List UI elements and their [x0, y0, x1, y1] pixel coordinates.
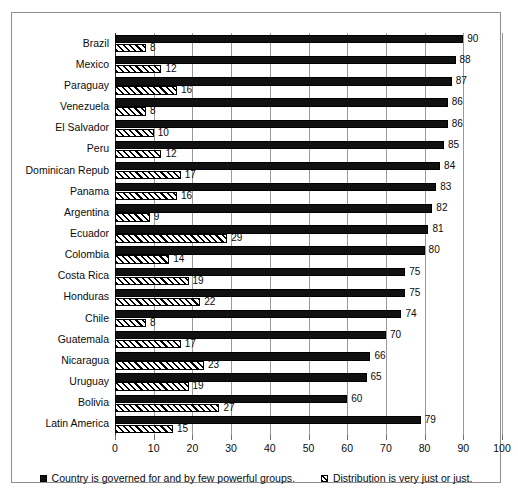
bar-governed-by-few — [115, 373, 367, 381]
axis-tick — [270, 435, 271, 440]
axis-tick — [463, 435, 464, 440]
bar-distribution-just — [115, 382, 189, 390]
category-label: Paraguay — [64, 80, 109, 91]
axis-tick — [386, 435, 387, 440]
bar-value-label: 12 — [165, 64, 176, 74]
bar-value-label: 23 — [208, 360, 219, 370]
axis-tick-label: 70 — [380, 442, 392, 454]
bar-value-label: 84 — [444, 161, 455, 171]
bar-distribution-just — [115, 298, 200, 306]
axis-tick-label: 10 — [148, 442, 160, 454]
legend-item: Country is governed for and by few power… — [40, 472, 295, 484]
axis-tick — [502, 435, 503, 440]
bar-row: 748 — [115, 308, 502, 329]
bar-row: 6623 — [115, 350, 502, 371]
bar-governed-by-few — [115, 225, 428, 233]
bar-row: 7519 — [115, 266, 502, 287]
bar-value-label: 29 — [231, 233, 242, 243]
bar-distribution-just — [115, 44, 146, 52]
bar-value-label: 8 — [150, 318, 156, 328]
bar-governed-by-few — [115, 98, 448, 106]
bar-governed-by-few — [115, 268, 405, 276]
bar-value-label: 14 — [173, 254, 184, 264]
bar-distribution-just — [115, 255, 169, 263]
bar-value-label: 15 — [177, 424, 188, 434]
bar-value-label: 60 — [351, 394, 362, 404]
bar-row: 8512 — [115, 139, 502, 160]
bar-value-label: 75 — [409, 267, 420, 277]
bar-value-label: 88 — [460, 55, 471, 65]
axis-tick-label: 90 — [457, 442, 469, 454]
axis-tick-label: 0 — [112, 442, 118, 454]
bar-row: 7522 — [115, 287, 502, 308]
axis-tick — [154, 435, 155, 440]
bar-row: 7915 — [115, 414, 502, 435]
bar-value-label: 82 — [436, 203, 447, 213]
category-label: Venezuela — [60, 101, 109, 112]
axis-tick-label: 50 — [303, 442, 315, 454]
bar-value-label: 86 — [452, 119, 463, 129]
bar-row: 868 — [115, 96, 502, 117]
category-label: Dominican Repub — [26, 165, 109, 176]
bar-value-label: 9 — [154, 212, 160, 222]
solid-square-icon — [40, 475, 47, 482]
bar-value-label: 83 — [440, 182, 451, 192]
category-label: Brazil — [83, 38, 109, 49]
bar-governed-by-few — [115, 183, 436, 191]
bar-value-label: 19 — [193, 381, 204, 391]
bar-distribution-just — [115, 425, 173, 433]
bar-governed-by-few — [115, 77, 452, 85]
axis-tick — [309, 435, 310, 440]
bar-governed-by-few — [115, 35, 463, 43]
bar-governed-by-few — [115, 246, 425, 254]
bar-value-label: 17 — [185, 170, 196, 180]
axis-tick-label: 20 — [187, 442, 199, 454]
bar-value-label: 70 — [390, 330, 401, 340]
bar-governed-by-few — [115, 416, 421, 424]
bar-governed-by-few — [115, 310, 401, 318]
bar-row: 8014 — [115, 245, 502, 266]
bar-value-label: 16 — [181, 191, 192, 201]
bar-rows: 9088812871686886108512841783168298129801… — [115, 33, 502, 435]
bar-value-label: 17 — [185, 339, 196, 349]
bar-distribution-just — [115, 107, 146, 115]
axis-tick — [425, 435, 426, 440]
value-axis: 0102030405060708090100 — [115, 435, 502, 461]
category-label: Latin America — [45, 418, 109, 429]
plot-area: 9088812871686886108512841783168298129801… — [115, 33, 502, 435]
bar-governed-by-few — [115, 204, 432, 212]
bar-governed-by-few — [115, 162, 440, 170]
bar-row: 908 — [115, 33, 502, 54]
bar-distribution-just — [115, 340, 181, 348]
bar-distribution-just — [115, 171, 181, 179]
legend-label: Distribution is very just or just. — [333, 472, 472, 484]
category-label: Argentina — [64, 207, 109, 218]
legend-item: Distribution is very just or just. — [321, 472, 472, 484]
category-label: Panama — [70, 186, 109, 197]
bar-value-label: 90 — [467, 34, 478, 44]
category-label: Chile — [85, 313, 109, 324]
bar-row: 8812 — [115, 54, 502, 75]
bar-row: 8316 — [115, 181, 502, 202]
bar-value-label: 80 — [429, 245, 440, 255]
bar-distribution-just — [115, 319, 146, 327]
bar-value-label: 85 — [448, 140, 459, 150]
bar-value-label: 27 — [223, 403, 234, 413]
bar-distribution-just — [115, 86, 177, 94]
bar-row: 829 — [115, 202, 502, 223]
category-label: Mexico — [76, 59, 109, 70]
category-label: Costa Rica — [58, 270, 109, 281]
axis-tick — [192, 435, 193, 440]
bar-distribution-just — [115, 277, 189, 285]
bar-value-label: 16 — [181, 85, 192, 95]
category-label: Bolivia — [78, 397, 109, 408]
gridline — [502, 33, 503, 435]
bar-distribution-just — [115, 234, 227, 242]
bar-value-label: 10 — [158, 128, 169, 138]
axis-tick-label: 80 — [419, 442, 431, 454]
bar-row: 8129 — [115, 223, 502, 244]
bar-value-label: 22 — [204, 297, 215, 307]
bar-governed-by-few — [115, 289, 405, 297]
bar-row: 6027 — [115, 393, 502, 414]
axis-tick — [231, 435, 232, 440]
